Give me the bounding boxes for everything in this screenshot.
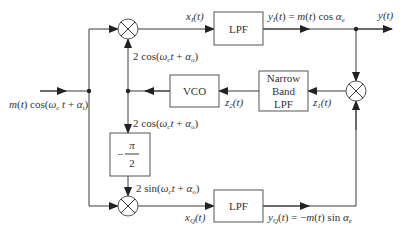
z1-label: z1(t) [312,96,332,110]
input-signal-label: m(t) cos(ωc t + αi) [9,98,89,112]
yi-label: yI(t) = m(t) cos αe [267,10,345,24]
phase-shift-block: − π 2 [110,133,150,176]
phase-shift-numerator: π [129,139,135,151]
costas-loop-diagram: LPF VCO Narrow Band LPF − π 2 LPF m(t) c… [0,0,406,237]
multiplier-right [346,81,366,101]
multiplier-bottom [118,196,138,216]
lpf-bottom-block: LPF [214,190,263,222]
nblpf-line-1: Narrow [267,72,301,84]
phase-shift-sign: − [117,148,123,160]
z2-label: z2(t) [224,96,244,110]
xq-label: xQ(t) [184,211,206,225]
junction-dot-vco [126,89,130,93]
multiplier-top [118,19,138,39]
lpf-top-block: LPF [214,12,263,45]
vco-label: VCO [183,85,206,97]
xi-label: xI(t) [185,10,204,24]
cos-mid-label: 2 cos(ωct + αo) [133,117,199,131]
sin-bottom-label: 2 sin(ωct + αo) [136,182,200,196]
output-label: y(t) [377,9,394,22]
junction-dot-input [87,89,91,93]
nblpf-line-2: Band [272,85,296,97]
wires [40,29,392,206]
lpf-top-label: LPF [229,23,248,35]
junction-dot-output [354,27,358,31]
yq-label: yQ(t) = −m(t) sin αe [267,211,352,225]
narrow-band-lpf-block: Narrow Band LPF [259,71,308,111]
vco-block: VCO [170,75,219,107]
phase-shift-denominator: 2 [129,157,135,169]
nblpf-line-3: LPF [274,98,293,110]
wire-yq [263,101,356,206]
cos-top-label: 2 cos(ωct + αo) [133,50,199,64]
lpf-bottom-label: LPF [229,200,248,212]
